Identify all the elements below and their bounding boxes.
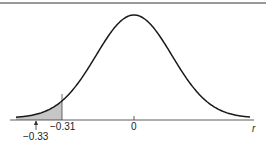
annotation-label-neg033: −0.33 xyxy=(23,132,48,142)
arrow-up-icon xyxy=(34,121,38,126)
tick-label-zero: 0 xyxy=(131,122,137,132)
tick-label-neg031: −0.31 xyxy=(50,122,75,132)
bell-curve xyxy=(16,15,250,117)
axis-label-r: r xyxy=(252,124,255,134)
